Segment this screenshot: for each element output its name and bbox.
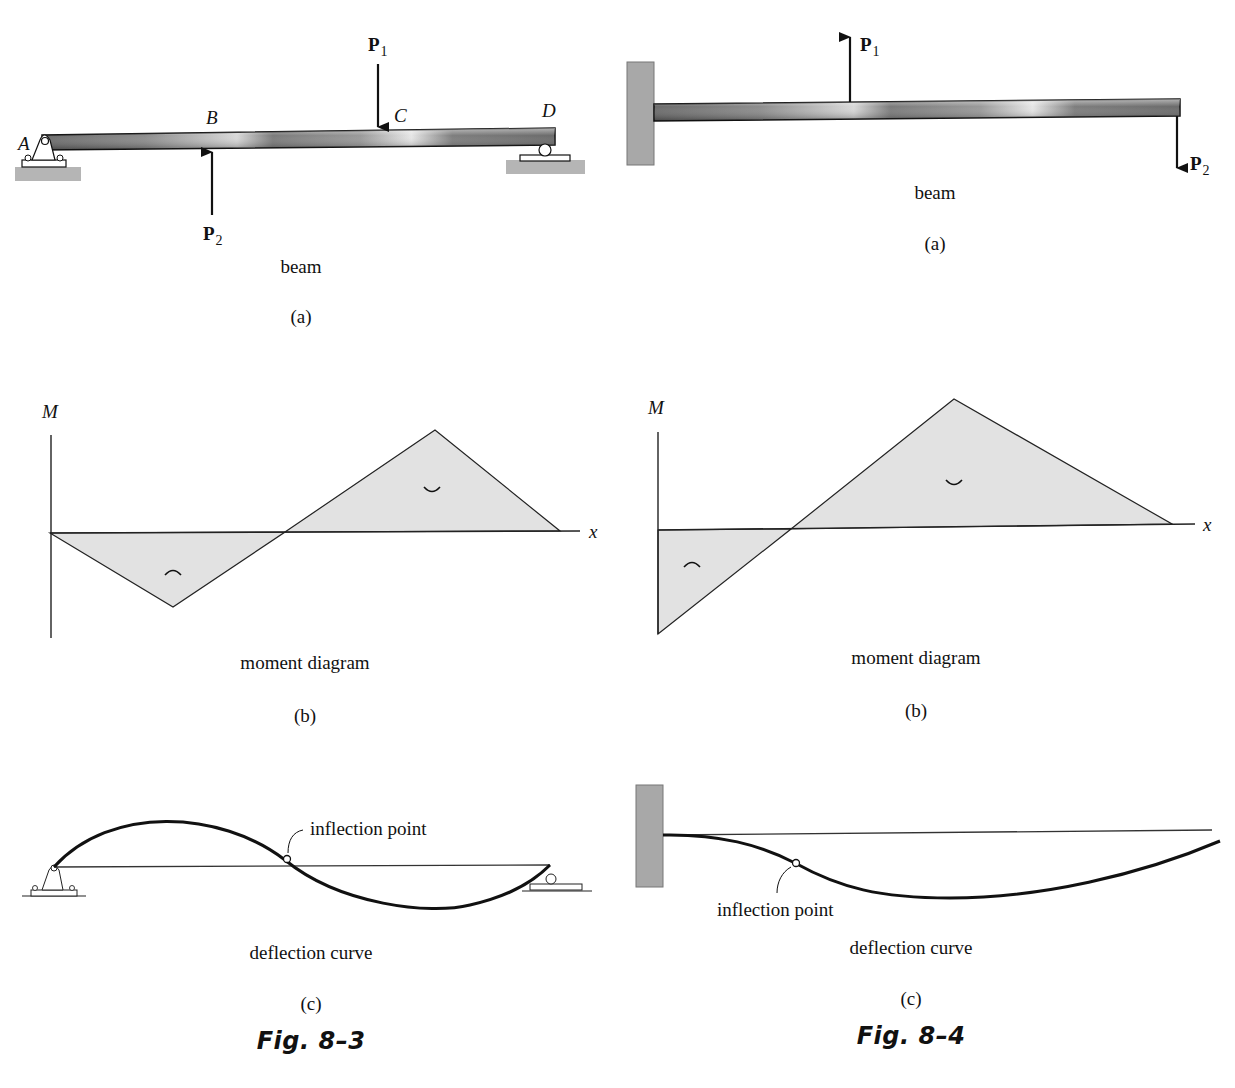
inflection-leader-line xyxy=(288,830,303,853)
fig-8-3-moment-diagram xyxy=(50,430,580,638)
fixed-wall-icon xyxy=(636,785,663,887)
force-p2-label: P2 xyxy=(1190,153,1210,179)
force-p1-label: P1 xyxy=(368,34,388,60)
undeformed-beam-line xyxy=(54,865,550,867)
x-axis-label: x xyxy=(589,521,597,543)
inflection-point-marker xyxy=(284,856,291,863)
fig-8-4-deflection xyxy=(636,785,1220,898)
force-subscript: 1 xyxy=(381,44,388,59)
inflection-point-label: inflection point xyxy=(310,818,427,840)
fixed-wall-icon xyxy=(627,62,654,165)
fig-8-4-beam xyxy=(627,37,1180,168)
force-subscript: 2 xyxy=(216,233,223,248)
figure-title: Fig. 8–3 xyxy=(257,1027,366,1055)
negative-moment-region xyxy=(658,529,791,634)
subfigure-label-b: (b) xyxy=(905,700,927,722)
fig-8-4-moment-diagram xyxy=(658,399,1195,634)
inflection-leader-line xyxy=(777,867,791,893)
deflection-curve xyxy=(663,835,1220,898)
roller-support-icon xyxy=(520,144,570,161)
subfigure-label-c: (c) xyxy=(300,993,321,1015)
m-axis-label: M xyxy=(648,397,664,419)
beam-caption: beam xyxy=(280,256,321,278)
moment-diagram-caption: moment diagram xyxy=(240,652,369,674)
undeformed-beam-line xyxy=(663,830,1212,835)
force-symbol: P xyxy=(1190,153,1202,174)
figure-title: Fig. 8–4 xyxy=(857,1022,966,1050)
ground-left-icon xyxy=(15,167,81,181)
m-axis-label: M xyxy=(42,401,58,423)
moment-diagram-caption: moment diagram xyxy=(851,647,980,669)
pin-support-icon xyxy=(31,865,77,896)
point-b-label: B xyxy=(206,107,218,129)
force-symbol: P xyxy=(368,34,380,55)
x-axis-label: x xyxy=(1203,514,1211,536)
positive-moment-region xyxy=(285,430,560,532)
beam-caption: beam xyxy=(914,182,955,204)
fig-8-3-beam xyxy=(15,64,585,215)
positive-moment-region xyxy=(791,399,1172,529)
subfigure-label-a: (a) xyxy=(924,233,945,255)
deflection-curve-caption: deflection curve xyxy=(850,937,973,959)
force-symbol: P xyxy=(203,223,215,244)
fig-8-3-deflection xyxy=(22,821,592,908)
point-d-label: D xyxy=(542,100,556,122)
point-a-label: A xyxy=(18,133,30,155)
force-p1-label: P1 xyxy=(860,34,880,60)
negative-moment-region xyxy=(50,532,285,607)
subfigure-label-a: (a) xyxy=(290,306,311,328)
force-p2-label: P2 xyxy=(203,223,223,249)
force-subscript: 1 xyxy=(873,44,880,59)
force-symbol: P xyxy=(860,34,872,55)
deflection-curve-caption: deflection curve xyxy=(250,942,373,964)
inflection-point-label: inflection point xyxy=(717,899,834,921)
x-axis xyxy=(50,531,580,533)
inflection-point-marker xyxy=(793,860,800,867)
subfigure-label-b: (b) xyxy=(294,705,316,727)
point-c-label: C xyxy=(394,105,407,127)
force-subscript: 2 xyxy=(1203,163,1210,178)
subfigure-label-c: (c) xyxy=(900,988,921,1010)
figure-canvas xyxy=(0,0,1235,1088)
ground-right-icon xyxy=(506,160,585,174)
